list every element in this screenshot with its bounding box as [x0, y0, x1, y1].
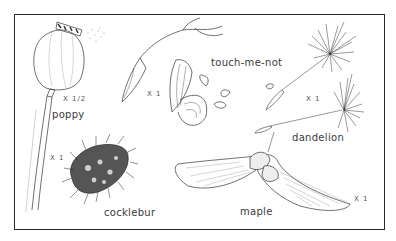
scale-label-maple: X 1 — [354, 195, 368, 203]
specimen-name-poppy: poppy — [52, 109, 85, 120]
specimen-name-dandelion: dandelion — [292, 132, 344, 143]
specimen-name-touch-me-not: touch-me-not — [211, 57, 282, 68]
specimen-name-cocklebur: cocklebur — [104, 207, 155, 218]
touch-me-not-drawing — [122, 18, 273, 125]
dandelion-seeds-drawing — [255, 22, 364, 133]
cocklebur-drawing — [62, 134, 138, 204]
scale-label-touch-me-not: X 1 — [147, 90, 161, 98]
maple-samara-drawing — [175, 132, 350, 210]
specimen-name-maple: maple — [240, 206, 273, 217]
scale-label-poppy: X 1/2 — [63, 95, 86, 103]
seed-illustrations — [0, 0, 396, 241]
scale-label-dandelion: X 1 — [306, 95, 320, 103]
scale-label-cocklebur: X 1 — [50, 154, 64, 162]
